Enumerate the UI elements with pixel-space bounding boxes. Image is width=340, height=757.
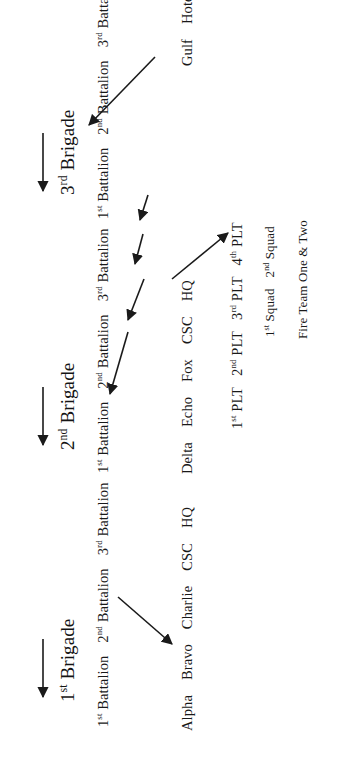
arrow-platoon-to-company [128,279,144,320]
company-hq-1: HQ [179,507,195,528]
arrow-battalion-1-to-companies [118,597,172,644]
arrow-company-hq-to-platoons [172,233,228,279]
company-gulf: Gulf [179,39,195,66]
brigade-2-ordinal: nd [57,428,70,440]
platoon-4: 4th PLT [229,222,245,265]
company-csc-2: CSC [179,316,195,344]
company-fox: Fox [179,359,195,382]
brigade-3-number: 3 [57,185,78,195]
company-echo: Echo [179,397,195,427]
brigade-1-ordinal: st [57,684,70,692]
arrow-company-to-battalion-2 [110,332,128,394]
company-hotel: Hotel [179,0,195,24]
battalion-2-2: 2nd Battalion [95,314,111,388]
squad-row: 1st Squad2nd Squad [263,226,276,337]
company-delta: Delta [179,442,195,474]
platoon-3: 3rd PLT [229,276,245,320]
company-row-1: AlphaBravoCharlieCSCHQ [180,507,195,731]
battalion-row-3: 1st Battalion2nd Battalion3rd Battalion [96,0,111,219]
squad-1: 1st Squad [262,288,277,337]
company-row-3: GulfHotelIndigoCSCHQ [180,0,195,66]
company-hq-2: HQ [179,280,195,301]
brigade-3-word: Brigade [57,110,78,176]
platoon-row: 1st PLT2nd PLT3rd PLT4th PLT [230,222,245,429]
brigade-2-number: 2 [57,440,78,450]
company-csc-1: CSC [179,543,195,571]
battalion-2-3: 3rd Battalion [95,228,111,301]
company-bravo: Bravo [179,644,195,680]
brigade-title-2: 2nd Brigade [58,363,77,450]
battalion-3-1: 1st Battalion [95,148,111,219]
arrow-fireteam-to-squad [140,195,148,220]
company-alpha: Alpha [179,695,195,731]
battalion-3-3: 3rd Battalion [95,0,111,47]
battalion-2-1: 1st Battalion [95,402,111,473]
battalion-1-3: 3rd Battalion [95,482,111,555]
arrow-squad-to-platoon [135,234,143,264]
arrow-layer [0,0,340,757]
battalion-row-1: 1st Battalion2nd Battalion3rd Battalion [96,482,111,727]
brigade-3-ordinal: rd [57,175,70,185]
company-charlie: Charlie [179,586,195,629]
brigade-2-word: Brigade [57,363,78,429]
brigade-1-number: 1 [57,692,78,702]
platoon-1: 1st PLT [229,387,245,429]
battalion-1-1: 1st Battalion [95,656,111,727]
brigade-title-1: 1st Brigade [58,619,77,702]
org-chart-canvas: 1st Brigade 1st Battalion2nd Battalion3r… [0,0,340,757]
brigade-title-3: 3rd Brigade [58,110,77,195]
squad-2: 2nd Squad [262,226,277,277]
platoon-2: 2nd PLT [229,331,245,376]
battalion-3-2: 2nd Battalion [95,60,111,134]
fire-team-row: Fire Team One & Two [296,220,309,339]
company-row-2: DeltaEchoFoxCSCHQ [180,280,195,474]
battalion-row-2: 1st Battalion2nd Battalion3rd Battalion [96,228,111,473]
brigade-1-word: Brigade [57,619,78,685]
battalion-1-2: 2nd Battalion [95,568,111,642]
